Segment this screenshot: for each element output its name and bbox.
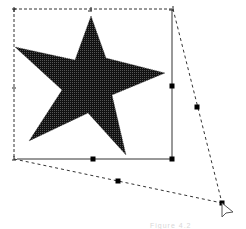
drawing-canvas[interactable] [0,0,246,229]
transform-handle[interactable] [195,105,200,110]
star-shape[interactable] [15,16,165,155]
arrow-cursor-icon [222,203,233,217]
transform-handle[interactable] [170,84,175,89]
transform-handle[interactable] [91,157,96,162]
transform-handle[interactable] [170,157,175,162]
figure-caption: Figure 4.2 [150,222,192,229]
transform-handle[interactable] [116,179,121,184]
